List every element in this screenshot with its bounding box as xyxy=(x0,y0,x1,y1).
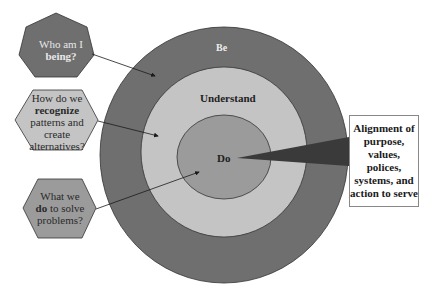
question-being: Who am I being? xyxy=(30,38,92,62)
ring-label-understand: Understand xyxy=(200,92,256,104)
question-recognize-bold: recognize xyxy=(35,104,79,116)
question-do: What we do to solve problems? xyxy=(30,190,90,226)
ring-label-do: Do xyxy=(217,152,230,164)
question-do-bold: do xyxy=(36,202,48,214)
question-recognize-rest: patterns and create alternatives? xyxy=(26,116,88,152)
alignment-box-text: Alignment of purpose, values, polices, s… xyxy=(350,122,418,200)
question-being-bold: being? xyxy=(45,50,76,62)
question-recognize-line1: How do we xyxy=(32,92,83,104)
ring-label-be: Be xyxy=(216,42,227,53)
question-recognize: How do we recognize patterns and create … xyxy=(22,92,92,152)
question-being-line1: Who am I xyxy=(39,38,83,50)
alignment-box: Alignment of purpose, values, polices, s… xyxy=(349,115,419,207)
question-do-line1: What we xyxy=(40,190,79,202)
